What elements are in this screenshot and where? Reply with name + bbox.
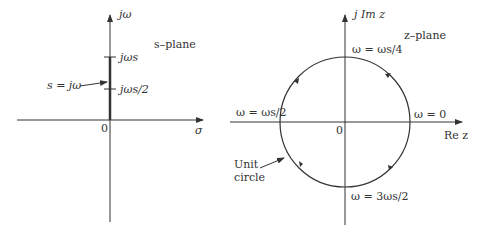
- right-point-label: ω = 0: [414, 108, 446, 121]
- circle-arrow-lower-left: [299, 161, 303, 167]
- z-plane-origin-label: 0: [336, 124, 343, 137]
- bottom-point-label: ω = 3ωs/2: [351, 190, 409, 203]
- z-plane-horizontal-axis-label: Re z: [444, 129, 468, 142]
- unit-circle-pointer: [260, 158, 284, 168]
- z-plane-vertical-axis-label-text: j Im z: [354, 8, 385, 21]
- s-plane-vertical-axis-label: jω: [119, 8, 131, 21]
- top-point-label: ω = ωs/4: [352, 43, 403, 56]
- unit-circle-label-line2: circle: [234, 171, 265, 184]
- s-plane-horizontal-axis-label: σ: [195, 124, 203, 137]
- s-eq-jw-annotation: s = jω: [47, 79, 81, 92]
- tick-jws-label: jωs: [120, 51, 138, 64]
- left-point-label: ω = ωs/2: [236, 106, 287, 119]
- z-plane-vertical-axis-label: j Im z: [354, 8, 385, 21]
- s-plane-title: s–plane: [154, 38, 196, 51]
- s-plane-origin-label: 0: [101, 122, 108, 135]
- unit-circle-label-line1: Unit: [234, 158, 258, 171]
- tick-jws-half-label: jωs/2: [120, 83, 149, 96]
- z-plane-title: z–plane: [404, 29, 446, 42]
- s-eq-jw-arrow: [80, 82, 107, 86]
